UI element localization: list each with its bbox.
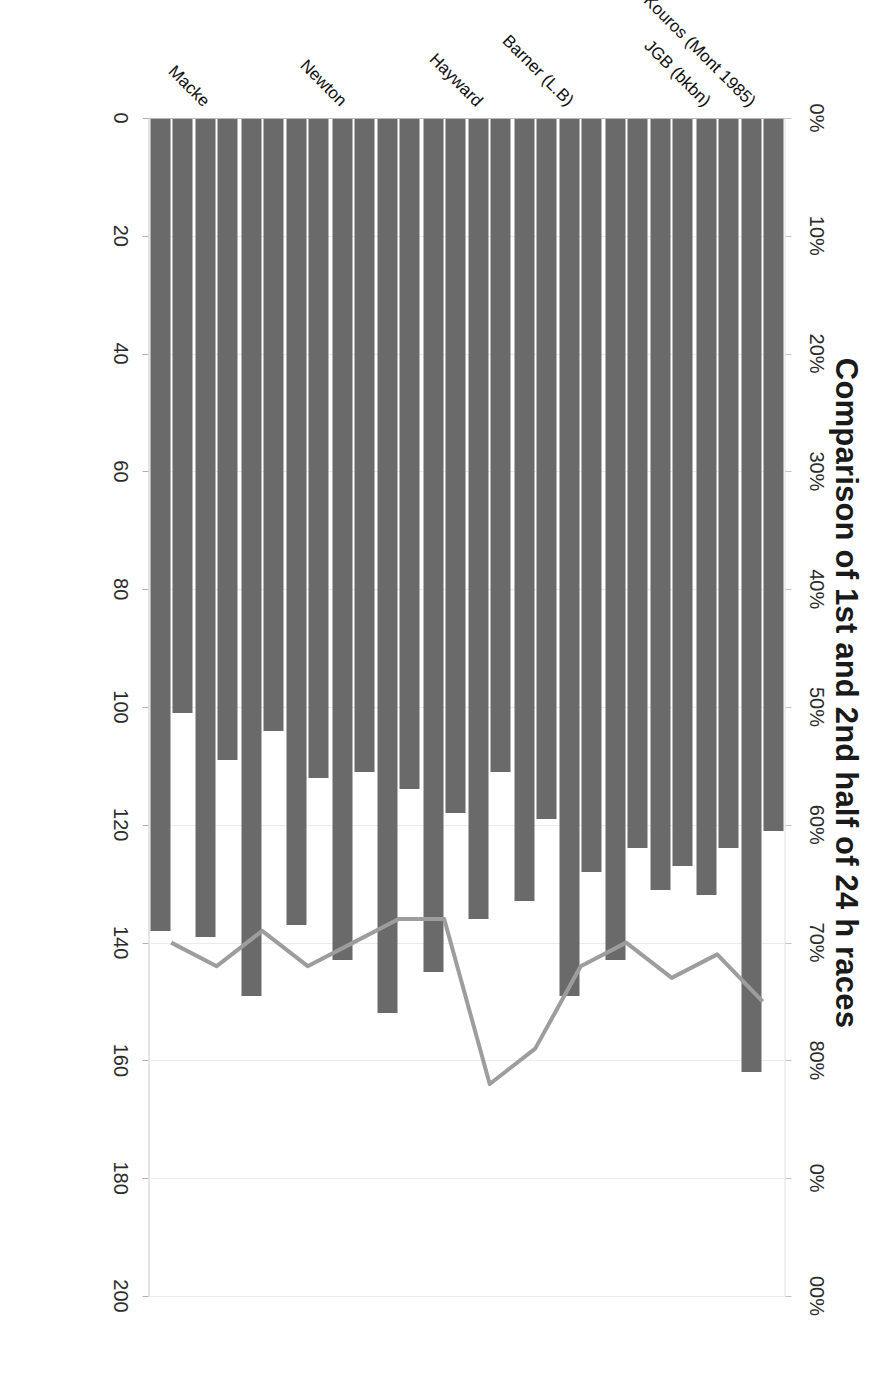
bar	[514, 119, 534, 901]
primary-tick-label: 40	[108, 342, 131, 364]
bar	[172, 119, 192, 713]
primary-tick	[142, 707, 148, 708]
secondary-tick-label: 30%	[804, 451, 827, 491]
secondary-tick	[785, 1296, 791, 1297]
bar	[581, 119, 601, 872]
secondary-tick-label: 40%	[804, 569, 827, 609]
bar	[490, 119, 510, 772]
secondary-tick-label: 10%	[804, 216, 827, 256]
primary-tick	[142, 1178, 148, 1179]
primary-tick	[142, 354, 148, 355]
secondary-tick-label: 80%	[804, 1040, 827, 1080]
primary-tick	[142, 1296, 148, 1297]
bar	[217, 119, 237, 760]
primary-tick	[142, 1060, 148, 1061]
gridline	[148, 1296, 785, 1297]
bar	[445, 119, 465, 813]
bar	[627, 119, 647, 848]
secondary-tick-label: 00%	[804, 1276, 827, 1316]
bar	[263, 119, 283, 731]
secondary-tick	[785, 825, 791, 826]
primary-tick	[142, 471, 148, 472]
primary-tick-label: 120	[108, 808, 131, 841]
plot-area: 020406080100120140160180200 0%10%20%30%4…	[148, 118, 785, 1296]
chart-figure: Comparison of 1st and 2nd half of 24 h r…	[0, 0, 881, 1386]
bar	[423, 119, 443, 972]
primary-tick-label: 100	[108, 690, 131, 723]
bar	[354, 119, 374, 772]
primary-tick	[142, 118, 148, 119]
secondary-tick-label: 60%	[804, 805, 827, 845]
secondary-tick	[785, 589, 791, 590]
primary-tick-label: 20	[108, 225, 131, 247]
bar	[650, 119, 670, 890]
bar	[763, 119, 783, 831]
primary-tick-label: 140	[108, 926, 131, 959]
secondary-tick-label: 20%	[804, 334, 827, 374]
chart-title: Comparison of 1st and 2nd half of 24 h r…	[827, 0, 863, 1386]
category-label: Macke	[164, 62, 214, 112]
primary-tick-label: 160	[108, 1044, 131, 1077]
secondary-tick	[785, 236, 791, 237]
secondary-tick	[785, 707, 791, 708]
primary-tick-label: 200	[108, 1279, 131, 1312]
secondary-tick-label: 0%	[804, 104, 827, 133]
gridline	[148, 1060, 785, 1061]
bar	[308, 119, 328, 778]
bar	[605, 119, 625, 960]
secondary-tick	[785, 943, 791, 944]
primary-tick	[142, 589, 148, 590]
secondary-tick	[785, 1060, 791, 1061]
bar	[332, 119, 352, 960]
secondary-tick	[785, 354, 791, 355]
category-label: Barner (L.B)	[498, 31, 578, 111]
secondary-tick-label: 0%	[804, 1164, 827, 1193]
bar	[195, 119, 215, 937]
bar	[241, 119, 261, 996]
bar	[696, 119, 716, 895]
secondary-tick	[785, 118, 791, 119]
primary-tick-label: 180	[108, 1162, 131, 1195]
bar	[741, 119, 761, 1072]
primary-tick-label: 80	[108, 578, 131, 600]
gridline	[148, 1178, 785, 1179]
primary-tick	[142, 825, 148, 826]
bar	[559, 119, 579, 996]
primary-tick	[142, 236, 148, 237]
primary-tick-label: 60	[108, 460, 131, 482]
bar	[286, 119, 306, 925]
chart-page: Comparison of 1st and 2nd half of 24 h r…	[0, 0, 881, 1386]
bar	[718, 119, 738, 848]
primary-tick-label: 0	[108, 112, 131, 123]
bar	[150, 119, 170, 931]
secondary-tick-label: 70%	[804, 923, 827, 963]
bar	[399, 119, 419, 789]
primary-tick	[142, 943, 148, 944]
category-label: Newton	[295, 56, 350, 111]
secondary-tick	[785, 1178, 791, 1179]
bar	[468, 119, 488, 919]
secondary-tick	[785, 471, 791, 472]
bar	[672, 119, 692, 866]
secondary-tick-label: 50%	[804, 687, 827, 727]
category-label: Hayward	[425, 49, 487, 111]
bar	[377, 119, 397, 1013]
bar	[536, 119, 556, 819]
